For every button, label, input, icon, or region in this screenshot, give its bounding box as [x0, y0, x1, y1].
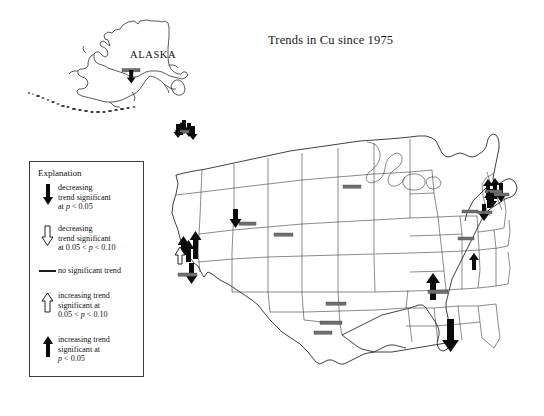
down-arrow-hollow-icon: [37, 224, 58, 247]
us-map-svg: [142, 112, 542, 404]
legend-item-decreasing-weak: decreasing trend significant at 0.05 < p…: [37, 224, 145, 253]
us-outline: [172, 134, 517, 364]
alaska-inset: ALASKA: [22, 8, 222, 118]
legend-title: Explanation: [38, 168, 82, 178]
trend-map-figure: Trends in Cu since 1975: [0, 0, 544, 416]
up-arrow-hollow-icon: [37, 291, 58, 314]
map-marker-maryland: [458, 237, 474, 240]
legend-item-label: decreasing trend significant at 0.05 < p…: [58, 224, 115, 253]
map-marker-colorado: [274, 233, 293, 236]
map-marker-minnesota: [343, 185, 361, 188]
legend-item-label: increasing trend significant at p < 0.05: [58, 335, 110, 364]
us-map: [142, 112, 542, 404]
legend-item-label: no significant trend: [58, 266, 121, 276]
legend-item-increasing-strong: increasing trend significant at p < 0.05: [37, 335, 145, 364]
map-marker-florida: [442, 319, 459, 352]
map-marker-cluster-washington: [174, 120, 198, 140]
legend-item-label: increasing trend significant at 0.05 < p…: [58, 291, 110, 320]
alaska-label: ALASKA: [130, 49, 176, 60]
legend-item-label: decreasing trend significant at p < 0.05: [58, 183, 111, 212]
down-arrow-filled-icon: [37, 183, 58, 206]
legend-item-increasing-weak: increasing trend significant at 0.05 < p…: [37, 291, 145, 320]
legend-box: Explanation decreasing trend significant…: [29, 161, 144, 377]
alaska-landmass: [69, 20, 188, 107]
map-marker-north-carolina: [469, 253, 479, 270]
legend-item-decreasing-strong: decreasing trend significant at p < 0.05: [37, 183, 145, 212]
legend-item-no-trend: no significant trend: [37, 266, 145, 276]
state-borders: [176, 139, 510, 348]
aleutian-islands: [28, 92, 136, 113]
horizontal-bar-icon: [37, 270, 58, 273]
map-marker-cluster-california: [175, 231, 202, 284]
up-arrow-filled-icon: [37, 335, 58, 358]
map-marker-pennsylvania: [462, 210, 478, 213]
page-title: Trends in Cu since 1975: [268, 33, 393, 48]
alaska-outline-svg: [22, 8, 222, 118]
